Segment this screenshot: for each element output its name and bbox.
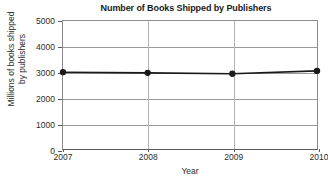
y-tick-mark bbox=[58, 99, 62, 100]
y-tick-label: 5000 bbox=[36, 16, 55, 26]
chart-figure: Number of Books Shipped by Publishers Mi… bbox=[0, 0, 328, 185]
data-point-marker bbox=[144, 70, 150, 76]
y-tick-label: 1000 bbox=[36, 120, 55, 130]
chart-title: Number of Books Shipped by Publishers bbox=[44, 3, 328, 13]
y-tick-mark bbox=[58, 125, 62, 126]
y-tick-label: 3000 bbox=[36, 68, 55, 78]
y-tick-mark bbox=[58, 21, 62, 22]
data-point-marker bbox=[60, 69, 66, 75]
y-axis-title-line-2: by publishers bbox=[17, 34, 28, 84]
series-line bbox=[63, 71, 317, 74]
x-axis-title: Year bbox=[62, 166, 318, 176]
data-point-marker bbox=[314, 68, 320, 74]
x-tick-label: 2007 bbox=[54, 152, 73, 162]
y-tick-label: 4000 bbox=[36, 42, 55, 52]
plot-area: 010002000300040005000 2007200820092010 bbox=[62, 20, 318, 150]
y-axis-title-line-1: Millions of books shipped bbox=[6, 12, 17, 107]
x-tick-label: 2008 bbox=[139, 152, 158, 162]
y-tick-mark bbox=[58, 47, 62, 48]
series-line-chart bbox=[63, 21, 317, 149]
y-axis-title: Millions of books shipped by publishers bbox=[0, 0, 34, 124]
x-tick-label: 2009 bbox=[224, 152, 243, 162]
y-tick-label: 2000 bbox=[36, 94, 55, 104]
x-tick-label: 2010 bbox=[310, 152, 328, 162]
data-point-marker bbox=[229, 71, 235, 77]
